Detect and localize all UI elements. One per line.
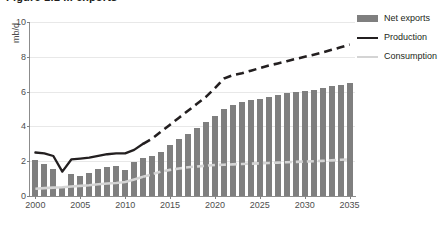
consumption-line-forecast [143,159,349,176]
production-line [35,144,143,172]
x-tick-label: 2005 [70,201,90,210]
y-tick-label: 4 [21,122,26,131]
x-tick-mark [35,195,36,199]
line-series-overlay [30,22,355,196]
x-tick-mark [305,195,306,199]
legend-swatch-fill [357,15,378,22]
x-tick-label: 2010 [115,201,135,210]
legend-item: Net exports [357,10,440,27]
x-axis-line [29,196,356,197]
bar-swatch-icon [357,15,378,22]
y-tick-label: 2 [21,157,26,166]
x-tick-label: 2030 [295,201,315,210]
legend-label: Net exports [384,14,430,23]
x-tick-label: 2035 [340,201,360,210]
light-line-swatch-icon [357,53,378,60]
figure-container: Figure 1.1 ... exports mb/d 0246810 2000… [0,0,440,226]
x-tick-mark [80,195,81,199]
legend-item: Production [357,29,440,46]
x-tick-mark [170,195,171,199]
figure-title: Figure 1.1 ... exports [6,0,117,3]
y-tick-label: 10 [16,18,26,27]
consumption-line [35,177,143,189]
legend-label: Consumption [384,52,437,61]
x-tick-label: 2015 [160,201,180,210]
production-line-forecast [143,45,349,144]
y-tick-label: 6 [21,87,26,96]
x-tick-mark [260,195,261,199]
x-tick-mark [215,195,216,199]
x-tick-mark [125,195,126,199]
plot-area: 0246810 20002005201020152020202520302035 [30,22,355,196]
x-tick-label: 2025 [250,201,270,210]
chart-legend: Net exportsProductionConsumption [357,10,440,67]
legend-swatch-fill [357,37,378,39]
solid-line-swatch-icon [357,34,378,41]
x-tick-mark [350,195,351,199]
x-tick-label: 2000 [25,201,45,210]
x-tick-label: 2020 [205,201,225,210]
y-tick-mark [27,196,30,197]
legend-item: Consumption [357,48,440,65]
y-tick-label: 8 [21,52,26,61]
legend-swatch-fill [357,56,378,58]
legend-label: Production [384,33,427,42]
